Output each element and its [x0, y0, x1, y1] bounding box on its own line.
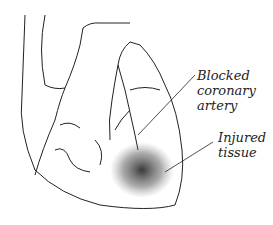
label-line: Blocked — [197, 68, 256, 83]
label-line: artery — [197, 98, 256, 113]
label-blocked-coronary-artery: Blocked coronary artery — [197, 68, 256, 113]
heart-diagram: Blocked coronary artery Injured tissue — [0, 0, 273, 225]
label-line: Injured — [218, 130, 266, 145]
blocked-artery-pointer — [138, 75, 195, 135]
injured-tissue-pointer — [165, 142, 213, 172]
injured-tissue-shading — [110, 142, 174, 198]
label-line: tissue — [218, 145, 266, 160]
label-line: coronary — [197, 83, 256, 98]
label-injured-tissue: Injured tissue — [218, 130, 266, 160]
